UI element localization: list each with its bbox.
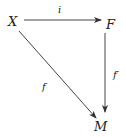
commutative-diagram: X F M i f′ f xyxy=(0,0,126,137)
edge-label-i: i xyxy=(58,5,61,15)
edge-label-f: f xyxy=(42,82,46,92)
edge-label-f-prime: f′ xyxy=(113,70,119,80)
node-f: F xyxy=(106,18,115,31)
node-m: M xyxy=(94,120,107,133)
node-x: X xyxy=(8,15,17,28)
arrow-x-to-m xyxy=(19,31,96,118)
